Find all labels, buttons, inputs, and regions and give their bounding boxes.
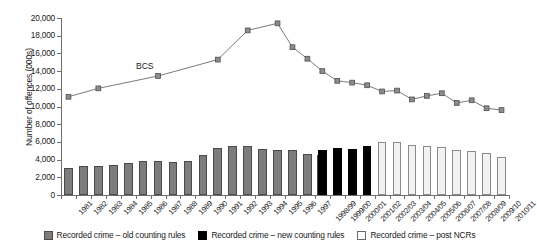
y-axis-tick-label: 10,000 bbox=[31, 101, 55, 111]
bcs-data-point bbox=[335, 78, 340, 83]
y-axis-tick-label: 6,000 bbox=[35, 136, 55, 146]
y-axis-tick-label: 20,000 bbox=[31, 13, 55, 23]
x-axis-tick-label: 1988 bbox=[182, 199, 200, 217]
x-axis-tick-label: 1981 bbox=[77, 199, 95, 217]
bcs-data-point bbox=[156, 74, 161, 79]
x-axis-tick-label: 1984 bbox=[122, 199, 140, 217]
bcs-data-point bbox=[350, 80, 355, 85]
legend-item: Recorded crime – post NCRs bbox=[357, 230, 475, 240]
y-axis-tick-label: 0 bbox=[51, 190, 55, 200]
legend-swatch-new bbox=[198, 231, 207, 240]
bcs-data-point bbox=[439, 91, 444, 96]
y-axis-tick-label: 14,000 bbox=[31, 66, 55, 76]
bcs-data-point bbox=[499, 108, 504, 113]
legend-swatch-post bbox=[357, 231, 366, 240]
x-axis-tick-label: 1991 bbox=[226, 199, 244, 217]
bcs-data-point bbox=[290, 45, 295, 50]
legend-label: Recorded crime – new counting rules bbox=[211, 230, 344, 240]
x-axis-tick-label: 1982 bbox=[92, 199, 110, 217]
x-axis-tick-label: 1993 bbox=[256, 199, 274, 217]
x-axis-tick-label: 1996 bbox=[301, 199, 319, 217]
x-axis-labels: 1981198219831984198519861987198819891990… bbox=[61, 199, 509, 231]
legend-label: Recorded crime – post NCRs bbox=[370, 230, 475, 240]
bcs-data-point bbox=[66, 94, 71, 99]
bcs-data-point bbox=[454, 101, 459, 106]
x-axis-tick-label: 1990 bbox=[212, 199, 230, 217]
bcs-data-point bbox=[245, 28, 250, 33]
bcs-data-point bbox=[275, 21, 280, 26]
x-axis-tick-label: 1986 bbox=[152, 199, 170, 217]
bcs-data-point bbox=[395, 88, 400, 93]
bcs-data-point bbox=[380, 89, 385, 94]
chart-legend: Recorded crime – old counting rulesRecor… bbox=[0, 230, 519, 240]
y-axis-tick-label: 16,000 bbox=[31, 48, 55, 58]
plot-area: 02,0004,0006,0008,00010,00012,00014,0001… bbox=[61, 18, 509, 195]
y-axis-tick-label: 12,000 bbox=[31, 83, 55, 93]
bcs-data-point bbox=[410, 97, 415, 102]
x-axis-tick bbox=[509, 195, 510, 199]
legend-item: Recorded crime – new counting rules bbox=[198, 230, 344, 240]
legend-item: Recorded crime – old counting rules bbox=[44, 230, 186, 240]
y-axis-tick-label: 2,000 bbox=[35, 172, 55, 182]
x-axis-tick-label: 1987 bbox=[167, 199, 185, 217]
x-axis-tick-label: 1989 bbox=[197, 199, 215, 217]
x-axis-tick-label: 1997 bbox=[316, 199, 334, 217]
legend-swatch-old bbox=[44, 231, 53, 240]
bcs-data-point bbox=[484, 106, 489, 111]
y-axis-tick-label: 8,000 bbox=[35, 119, 55, 129]
bcs-data-point bbox=[424, 93, 429, 98]
bcs-annotation-label: BCS bbox=[136, 61, 153, 71]
bcs-data-point bbox=[96, 86, 101, 91]
bcs-data-point bbox=[365, 83, 370, 88]
bcs-line-series bbox=[61, 18, 509, 196]
x-axis-tick-label: 1983 bbox=[107, 199, 125, 217]
bcs-data-point bbox=[469, 98, 474, 103]
y-axis-tick-label: 18,000 bbox=[31, 30, 55, 40]
bcs-data-point bbox=[305, 56, 310, 61]
x-axis-tick-label: 1985 bbox=[137, 199, 155, 217]
legend-label: Recorded crime – old counting rules bbox=[57, 230, 186, 240]
bcs-data-point bbox=[215, 57, 220, 62]
x-axis-tick-label: 1994 bbox=[271, 199, 289, 217]
bcs-data-point bbox=[320, 69, 325, 74]
y-axis-tick-label: 4,000 bbox=[35, 154, 55, 164]
x-axis-tick-label: 1992 bbox=[241, 199, 259, 217]
